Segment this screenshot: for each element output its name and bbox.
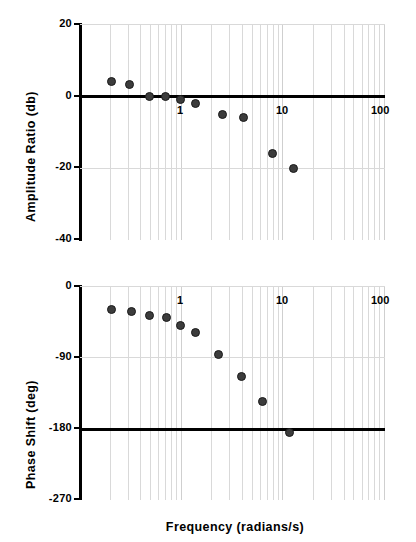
phase-ytick-0: 0 — [38, 279, 72, 291]
x-gridline-minor — [313, 286, 314, 500]
x-gridline-minor — [362, 286, 363, 500]
x-gridline-minor — [140, 286, 141, 500]
x-gridline-minor — [252, 24, 253, 240]
x-gridline-minor — [374, 24, 375, 240]
data-point — [107, 77, 116, 86]
y-gridline — [80, 357, 385, 358]
x-gridline-minor — [374, 286, 375, 500]
x-gridline-minor — [267, 286, 268, 500]
amplitude-plot-area — [80, 24, 385, 240]
x-gridline-minor — [313, 24, 314, 240]
x-gridline-minor — [150, 24, 151, 240]
amplitude-y-axis-label: Amplitude Ratio (db) — [24, 91, 38, 222]
x-gridline-minor — [158, 24, 159, 240]
x-gridline-minor — [344, 286, 345, 500]
x-gridline-minor — [171, 286, 172, 500]
phase-plot-area — [80, 286, 385, 500]
amplitude-ytick-0: 0 — [40, 89, 72, 101]
data-point — [107, 305, 116, 314]
reference-line — [80, 95, 385, 98]
data-point — [289, 164, 298, 173]
x-gridline-minor — [331, 286, 332, 500]
phase-y-axis-label: Phase Shift (deg) — [24, 380, 38, 489]
x-gridline-minor — [176, 24, 177, 240]
frequency-x-axis-label: Frequency (radians/s) — [105, 520, 365, 534]
reference-line — [80, 428, 385, 431]
phase-xtick-10: 10 — [276, 294, 288, 306]
data-point — [237, 372, 246, 381]
x-gridline-major — [181, 24, 182, 240]
x-gridline-minor — [278, 286, 279, 500]
x-gridline-minor — [242, 286, 243, 500]
data-point — [285, 428, 294, 437]
x-gridline-minor — [260, 24, 261, 240]
x-gridline-major — [282, 24, 283, 240]
x-gridline-minor — [379, 286, 380, 500]
x-gridline-minor — [140, 24, 141, 240]
phase-xtick-1: 1 — [177, 294, 183, 306]
x-gridline-minor — [379, 24, 380, 240]
x-gridline-minor — [211, 24, 212, 240]
x-gridline-minor — [267, 24, 268, 240]
y-gridline — [80, 168, 385, 169]
x-gridline-minor — [362, 24, 363, 240]
x-gridline-minor — [260, 286, 261, 500]
data-point — [127, 307, 136, 316]
x-gridline-minor — [229, 286, 230, 500]
x-gridline-minor — [128, 24, 129, 240]
x-gridline-minor — [273, 24, 274, 240]
x-gridline-major — [282, 286, 283, 500]
x-gridline-minor — [211, 286, 212, 500]
data-point — [176, 95, 185, 104]
phase-shift-panel: Phase Shift (deg) 0 -90 -180 -270 1 10 1… — [0, 271, 416, 542]
phase-ytick-minus270: -270 — [38, 492, 72, 504]
x-gridline-minor — [158, 286, 159, 500]
y-gridline — [80, 286, 385, 287]
x-gridline-minor — [165, 24, 166, 240]
data-point — [145, 311, 154, 320]
amplitude-ratio-panel: Amplitude Ratio (db) 20 0 -20 -40 1 10 1… — [0, 0, 416, 271]
x-gridline-minor — [252, 286, 253, 500]
x-gridline-minor — [368, 286, 369, 500]
x-gridline-minor — [353, 286, 354, 500]
x-gridline-minor — [242, 24, 243, 240]
amplitude-xtick-10: 10 — [276, 104, 288, 116]
amplitude-xtick-1: 1 — [177, 104, 183, 116]
data-point — [162, 313, 171, 322]
x-gridline-minor — [128, 286, 129, 500]
x-gridline-minor — [344, 24, 345, 240]
y-gridline — [80, 24, 385, 25]
x-gridline-minor — [353, 24, 354, 240]
x-gridline-minor — [229, 24, 230, 240]
data-point — [176, 321, 185, 330]
x-gridline-minor — [171, 24, 172, 240]
x-gridline-major — [384, 24, 385, 240]
data-point — [239, 113, 248, 122]
amplitude-ytick-20: 20 — [40, 17, 72, 29]
phase-ytick-minus180: -180 — [38, 421, 72, 433]
data-point — [161, 92, 170, 101]
phase-ytick-minus90: -90 — [38, 350, 72, 362]
data-point — [268, 149, 277, 158]
x-gridline-minor — [176, 286, 177, 500]
amplitude-xtick-100: 100 — [371, 104, 389, 116]
x-gridline-major — [384, 286, 385, 500]
phase-xtick-100: 100 — [371, 294, 389, 306]
amplitude-ytick-minus20: -20 — [40, 160, 72, 172]
x-gridline-minor — [273, 286, 274, 500]
data-point — [125, 80, 134, 89]
x-gridline-minor — [278, 24, 279, 240]
bode-plot-figure: Amplitude Ratio (db) 20 0 -20 -40 1 10 1… — [0, 0, 416, 542]
x-gridline-minor — [368, 24, 369, 240]
data-point — [191, 328, 200, 337]
data-point — [191, 99, 200, 108]
x-gridline-minor — [110, 24, 111, 240]
x-gridline-major — [181, 286, 182, 500]
amplitude-ytick-minus40: -40 — [40, 232, 72, 244]
x-gridline-minor — [331, 24, 332, 240]
data-point — [145, 92, 154, 101]
data-point — [218, 110, 227, 119]
x-gridline-minor — [110, 286, 111, 500]
